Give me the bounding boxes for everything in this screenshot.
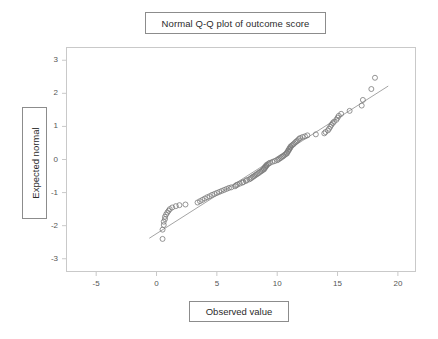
y-tick-label: 3 xyxy=(36,55,58,64)
y-tick-label: 1 xyxy=(36,121,58,130)
x-tick-label: 20 xyxy=(383,279,413,288)
x-tick-label: 0 xyxy=(142,279,172,288)
y-tick-label: 2 xyxy=(36,88,58,97)
x-tick-label: -5 xyxy=(81,279,111,288)
x-tick-label: 10 xyxy=(262,279,292,288)
qq-plot-figure: Normal Q-Q plot of outcome score Expecte… xyxy=(0,0,438,339)
x-axis-label-box: Observed value xyxy=(189,301,289,322)
x-axis-label: Observed value xyxy=(206,306,273,317)
chart-title-box: Normal Q-Q plot of outcome score xyxy=(145,12,326,34)
chart-title: Normal Q-Q plot of outcome score xyxy=(162,18,310,29)
y-tick-label: -2 xyxy=(36,221,58,230)
plot-area-frame xyxy=(66,47,416,272)
y-tick-label: 0 xyxy=(36,155,58,164)
y-tick-label: -1 xyxy=(36,188,58,197)
x-tick-label: 15 xyxy=(323,279,353,288)
y-tick-label: -3 xyxy=(36,254,58,263)
x-tick-label: 5 xyxy=(202,279,232,288)
